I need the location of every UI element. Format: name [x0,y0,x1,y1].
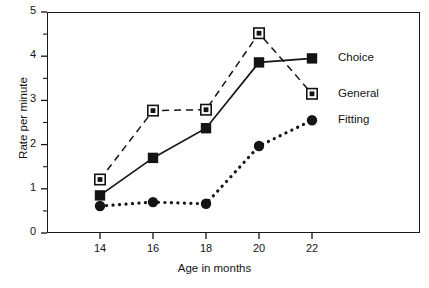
chart-figure: 5 4 3 2 1 0 14 16 18 20 22 Age in months… [0,0,429,288]
series-general-markers [95,28,317,185]
legend-label-general: General [338,87,379,99]
legend-label-choice: Choice [338,51,374,63]
x-tick-label-22: 22 [297,242,327,254]
x-axis-ticks [100,233,312,239]
series-choice-markers [95,53,317,200]
x-axis-title: Age in months [0,262,429,274]
y-axis-minor-ticks [43,34,47,211]
x-tick-label-16: 16 [138,242,168,254]
x-tick-label-20: 20 [244,242,274,254]
legend-label-fitting: Fitting [338,113,369,125]
y-tick-label-0: 0 [18,225,36,237]
x-tick-label-14: 14 [85,242,115,254]
y-tick-label-5: 5 [18,4,36,16]
y-axis-title: Rate per minute [17,48,29,188]
x-tick-label-18: 18 [191,242,221,254]
